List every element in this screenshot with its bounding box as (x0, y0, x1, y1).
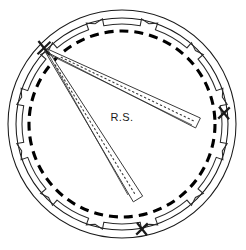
figure-background (0, 0, 246, 250)
technical-drawing-figure: R.S. (0, 0, 246, 250)
rs-label: R.S. (111, 111, 134, 123)
ring-assembly-diagram: R.S. (0, 0, 246, 250)
